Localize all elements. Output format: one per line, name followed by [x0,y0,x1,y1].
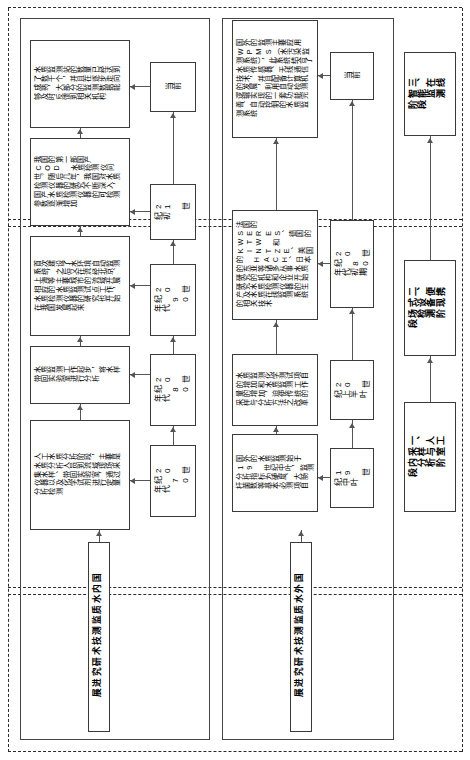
timeline-box-overseas-1: 19 世纪中叶 [330,448,374,508]
arrow-domestic-d1-d2 [77,405,83,410]
arrow-domestic-v1 [130,478,135,484]
arrow-domestic-t2-t3 [170,337,176,342]
timeline-box-overseas-3: 20 世纪 80 年代初期 [330,220,374,308]
connector-overseas-d3-d4 [276,138,277,210]
arrow-overseas-v1 [318,475,323,481]
connector-overseas-t3-t4 [352,100,353,220]
arrow-overseas-t3-t4 [349,101,355,106]
arrow-domestic-t1-t2 [170,427,176,432]
arrow-overseas-v3 [318,261,323,267]
section-title-overseas: 国外水质监测技术研究进展 [290,542,312,732]
arrow-domestic-v5 [130,84,135,90]
arrow-overseas-t1-t2 [349,423,355,428]
desc-box-overseas-3: 法国的 SERES、德国的 WTW 和 KINTZE、美国的 HACH、日本的东… [232,210,318,320]
desc-box-domestic-4: 我国的第一部国产 COD 水质检测仪问世。随后几年，我国对水质检测仪器的研究不断… [30,138,130,226]
desc-box-overseas-4: 国外的监测主要应用 WPMS（水污染监测系统），此系统结合了水质传感器、无线通信… [232,20,318,138]
desc-box-overseas-2: 水质监测化学测试项目的增加和水质监测工作量的增加，迫使传统的采样与分析方法之改革 [232,354,318,426]
stage-box-1: 一、人工采样与室内分析阶段 [404,402,456,512]
connector-stage-2-3 [430,136,431,260]
timeline-box-domestic-5: 当前 [150,62,196,112]
timeline-box-domestic-1: 20 世纪 70 年代 [150,445,196,517]
desc-box-domestic-2: 水质监测工作起步，将水样带回实验室进行分析 [30,346,130,404]
connector-overseas-t2-t3 [352,308,353,360]
arrow-title-overseas [298,531,304,536]
arrow-overseas-d2-d3 [273,322,279,327]
arrow-stage-1-2 [427,358,433,363]
section-title-domestic: 国内水质监测技术研究进展 [88,542,110,732]
timeline-box-domestic-4: 21 世纪初 [150,184,196,240]
arrow-overseas-v4 [318,73,323,79]
connector-domestic-t4-t5 [173,112,174,184]
desc-box-overseas-1: 国外的水质监测始于 19 世纪中叶，监测分析指标为硬度、大肠杆菌数等基本必测项目 [232,434,318,512]
arrow-stage-2-3 [427,138,433,143]
diagram-canvas: 国内水质监测技术研究进展 20 世纪 70 年代 20 世纪 80 年代 20 … [0,0,470,760]
desc-box-domestic-3: 首次建设了水环境自动监测系统，之后又在流经北京、上海等主要城市的流域开展相应的水… [30,236,130,336]
stage-box-3: 三、在线智能监测阶段 [404,52,456,136]
arrow-overseas-t2-t3 [349,309,355,314]
arrow-domestic-v4 [130,209,135,215]
stage-box-2: 二、便携式设备现场检测阶段 [404,260,456,356]
desc-box-domestic-5: 水质监测站的数量已经达到了数千个，并且在逐步走向成熟，大部分的监测数据能够及时反… [30,40,130,128]
arrow-domestic-v3 [130,283,135,289]
timeline-box-domestic-3: 20 世纪 90 年代 [150,264,196,336]
timeline-box-overseas-2: 20 世纪上半叶 [330,360,374,420]
arrow-domestic-t4-t5 [170,113,176,118]
stage-outer-bottom [462,8,463,752]
timeline-box-domestic-2: 20 世纪 80 年代 [150,354,196,426]
arrow-domestic-d3-d4 [77,227,83,232]
arrow-domestic-t3-t4 [170,241,176,246]
timeline-box-overseas-4: 当前 [330,52,374,100]
stage-outer-top [8,8,9,752]
desc-box-domestic-1: 人工水质分析阶段，主要是水质分析人员到流域现场采集水样、带回实验室，通过仪器以及… [30,420,130,530]
arrow-domestic-d2-d3 [77,337,83,342]
arrow-overseas-d3-d4 [273,139,279,144]
stage-outer-right [8,7,462,8]
stage-outer-left [8,751,462,752]
arrow-overseas-d1-d2 [273,427,279,432]
arrow-title-domestic [96,531,102,536]
diagram-root: 国内水质监测技术研究进展 20 世纪 70 年代 20 世纪 80 年代 20 … [0,0,470,760]
arrow-domestic-v2 [130,372,135,378]
arrow-domestic-d4-d5 [77,129,83,134]
